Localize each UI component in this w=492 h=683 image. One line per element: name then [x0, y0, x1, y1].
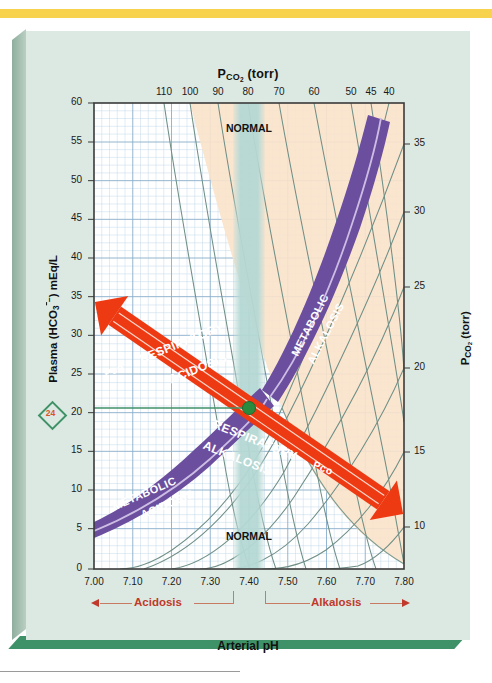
left-tick-25: 25: [56, 367, 82, 378]
alkalosis-arrow-icon: [402, 599, 410, 607]
bottom-axis-title: Arterial pH: [26, 639, 470, 653]
left-axis-title: Plasma (HCO3 −) mEq/L: [45, 209, 61, 429]
bottom-tick-750: 7.50: [271, 576, 305, 587]
bottom-tick-700: 7.00: [77, 576, 111, 587]
right-tick-20: 20: [414, 361, 440, 372]
top-tick-70: 70: [264, 86, 294, 97]
left-tick-55: 55: [56, 135, 82, 146]
left-tick-40: 40: [56, 251, 82, 262]
acidosis-range-line-right: [194, 603, 234, 604]
alkalosis-range-line-right: [370, 603, 402, 604]
right-tick-35: 35: [414, 137, 440, 148]
acidosis-arrow-icon: [91, 599, 99, 607]
left-tick-35: 35: [56, 290, 82, 301]
bottom-tick-730: 7.30: [193, 576, 227, 587]
chart-panel: PCO2 (torr) Plasma (HCO3 −) mEq/L PCO2 (…: [26, 31, 470, 640]
left-tick-5: 5: [56, 522, 82, 533]
acidosis-range-line-left: [100, 603, 132, 604]
bottom-tick-780: 7.80: [387, 576, 421, 587]
left-tick-20: 20: [56, 406, 82, 417]
top-tick-60: 60: [299, 86, 329, 97]
normal-label-bottom: NORMAL: [226, 530, 273, 542]
bottom-tick-760: 7.60: [310, 576, 344, 587]
acidosis-label: Acidosis: [134, 596, 182, 608]
left-tick-15: 15: [56, 444, 82, 455]
left-tick-50: 50: [56, 174, 82, 185]
alkalosis-range-line-left: [265, 603, 310, 604]
left-tick-45: 45: [56, 212, 82, 223]
plot-area: METABOLIC ACIDOSIS METABOLIC ALKALOSIS: [68, 72, 430, 602]
left-tick-marks: [88, 103, 94, 569]
top-tick-100: 100: [175, 86, 205, 97]
top-tick-40: 40: [374, 86, 404, 97]
right-tick-25: 25: [414, 280, 440, 291]
bottom-tick-710: 7.10: [116, 576, 150, 587]
right-tick-15: 15: [414, 445, 440, 456]
nomogram-svg: METABOLIC ACIDOSIS METABOLIC ALKALOSIS: [68, 72, 430, 602]
right-tick-30: 30: [414, 205, 440, 216]
left-tick-0: 0: [56, 562, 82, 573]
top-yellow-rule: [0, 9, 492, 18]
bottom-tick-720: 7.20: [155, 576, 189, 587]
alkalosis-label: Alkalosis: [311, 596, 362, 608]
bottom-hairline-rule: [0, 671, 240, 672]
figure-page: PCO2 (torr) Plasma (HCO3 −) mEq/L PCO2 (…: [0, 0, 492, 683]
panel-bevel-left: [12, 29, 26, 640]
bottom-tick-770: 7.70: [348, 576, 382, 587]
bottom-tick-740: 7.40: [232, 576, 266, 587]
top-tick-80: 80: [233, 86, 263, 97]
left-tick-60: 60: [56, 96, 82, 107]
normal-ph-band: [234, 103, 265, 569]
left-tick-30: 30: [56, 328, 82, 339]
normal-point-marker: [243, 402, 256, 415]
left-tick-10: 10: [56, 483, 82, 494]
top-tick-90: 90: [203, 86, 233, 97]
right-tick-10: 10: [414, 520, 440, 531]
normal-label-top: NORMAL: [226, 122, 273, 134]
right-tick-marks: [404, 144, 410, 527]
right-axis-title: PCO2 (torr): [459, 263, 474, 413]
